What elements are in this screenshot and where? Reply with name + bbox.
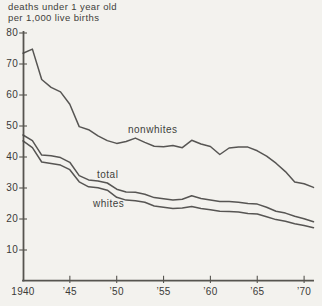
series-label-total: total	[97, 169, 118, 180]
x-tick-label: ’50	[100, 286, 134, 297]
line-nonwhites	[23, 49, 314, 187]
line-total	[23, 135, 314, 222]
y-tick-label: 30	[0, 182, 18, 193]
x-tick-label: ’55	[147, 286, 181, 297]
y-tick-label: 60	[0, 89, 18, 100]
plot-area	[0, 0, 322, 306]
y-tick-label: 50	[0, 120, 18, 131]
x-tick-label: ’70	[287, 286, 321, 297]
x-tick-label: 1940	[6, 286, 40, 297]
x-tick-label: ’45	[53, 286, 87, 297]
series-label-whites: whites	[93, 198, 124, 209]
y-tick-label: 80	[0, 27, 18, 38]
line-whites	[23, 141, 314, 228]
series-label-nonwhites: nonwhites	[128, 124, 178, 135]
x-tick-label: ’65	[240, 286, 274, 297]
infant-mortality-chart: deaths under 1 year old per 1,000 live b…	[0, 0, 322, 306]
y-tick-label: 70	[0, 58, 18, 69]
x-tick-label: ’60	[193, 286, 227, 297]
y-tick-label: 10	[0, 244, 18, 255]
y-tick-label: 40	[0, 151, 18, 162]
y-tick-label: 20	[0, 213, 18, 224]
